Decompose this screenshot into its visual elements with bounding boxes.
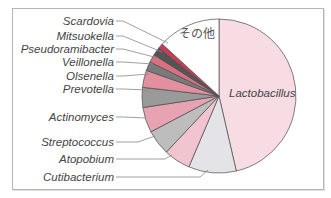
label-scardovia: Scardovia [63,15,114,27]
label-mitsuokella: Mitsuokella [56,30,114,42]
label-atopobium: Atopobium [58,153,114,165]
pie-chart: Scardovia Mitsuokella Pseudoramibacter V… [0,0,331,198]
label-pseudoramibacter: Pseudoramibacter [21,43,115,55]
label-other: その他 [179,27,215,41]
label-cutibacterium: Cutibacterium [43,171,114,183]
label-streptococcus: Streptococcus [41,136,114,148]
label-prevotella: Prevotella [63,83,114,95]
label-veillonella: Veillonella [62,56,114,68]
label-lactobacillus: Lactobacillus [229,87,296,99]
label-actinomyces: Actinomyces [48,111,114,123]
label-olsenella: Olsenella [66,70,114,82]
